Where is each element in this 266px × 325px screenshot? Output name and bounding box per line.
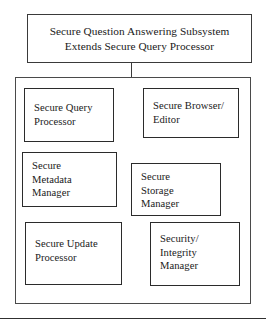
component-box-secure-query-processor: Secure Query Processor (24, 88, 114, 142)
connector-line (131, 63, 132, 78)
block-diagram: Secure Question Answering Subsystem Exte… (0, 0, 266, 325)
title-box: Secure Question Answering Subsystem Exte… (27, 14, 252, 63)
component-label-secure-update-processor: Secure Update Processor (35, 237, 121, 264)
title-box-label: Secure Question Answering Subsystem Exte… (46, 24, 234, 53)
component-box-secure-storage-manager: Secure Storage Manager (131, 163, 221, 216)
component-box-secure-metadata-manager: Secure Metadata Manager (22, 152, 117, 207)
bottom-divider (0, 318, 266, 319)
component-label-secure-storage-manager: Secure Storage Manager (141, 170, 220, 211)
component-label-secure-metadata-manager: Secure Metadata Manager (32, 159, 116, 200)
component-box-secure-browser-editor: Secure Browser/ Editor (143, 88, 239, 138)
component-box-secure-update-processor: Secure Update Processor (25, 222, 122, 285)
component-label-secure-browser-editor: Secure Browser/ Editor (153, 99, 238, 126)
component-box-security-integrity-manager: Security/ Integrity Manager (150, 222, 240, 286)
component-label-security-integrity-manager: Security/ Integrity Manager (160, 232, 239, 273)
component-label-secure-query-processor: Secure Query Processor (34, 101, 113, 128)
